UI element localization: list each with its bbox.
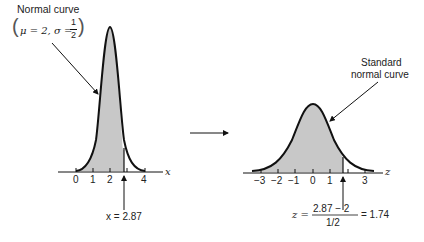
right-curve-title-1: Standard (361, 57, 402, 68)
left-curve-params: μ = 2, σ = (20, 25, 72, 36)
left-frac-num: 1 (71, 17, 76, 27)
formula-denominator: 1/2 (326, 217, 340, 228)
left-tick-0: 0 (73, 174, 79, 185)
right-pointer-arrow (330, 82, 378, 121)
left-tick-1: 1 (90, 174, 96, 185)
right-tick-0: 0 (310, 175, 316, 186)
right-shaded-area (252, 104, 343, 172)
formula-lhs: z = (292, 209, 309, 220)
left-marker-label: x = 2.87 (106, 211, 142, 222)
left-pointer-arrow (52, 43, 98, 94)
right-tick-neg2: −2 (271, 175, 282, 186)
left-curve-title: Normal curve (17, 3, 79, 15)
left-frac-den: 2 (71, 30, 76, 40)
diagram-canvas (0, 0, 424, 242)
formula-numerator: 2.87 − 2 (313, 203, 349, 214)
formula-result: = 1.74 (361, 209, 389, 220)
left-tick-2: 2 (107, 174, 113, 185)
right-axis-label: z (385, 166, 390, 177)
left-paren-open: ( (12, 15, 19, 38)
right-curve-title-2: normal curve (351, 69, 409, 80)
left-axis-label: x (165, 166, 171, 177)
left-paren-close: ) (78, 15, 85, 38)
right-tick-1: 1 (327, 175, 333, 186)
left-tick-4: 4 (141, 174, 147, 185)
right-tick-3: 3 (362, 175, 368, 186)
right-standard-curve (243, 82, 383, 215)
right-tick-neg3: −3 (254, 175, 265, 186)
right-tick-neg1: −1 (288, 175, 299, 186)
